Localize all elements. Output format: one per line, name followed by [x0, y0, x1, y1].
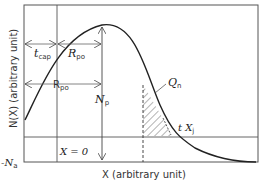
gaussian-profile-curve	[25, 25, 256, 162]
rpo-label-lower: Rpo	[53, 79, 69, 92]
rpo-label-top: Rpo	[67, 47, 85, 61]
tcap-label: tcap	[34, 47, 52, 61]
neg-na-label: -Na	[1, 157, 17, 170]
qn-hatched-region	[143, 85, 171, 136]
xj-label: t Xj	[178, 122, 194, 135]
y-axis-label: N(X) (arbitrary unit)	[8, 29, 19, 128]
qn-label: Qn	[168, 76, 181, 90]
doping-profile-diagram: tcap Rpo Rpo Np Qn t Xj X = 0 -Na X (arb…	[0, 0, 262, 188]
qn-leader-line	[155, 84, 166, 93]
x-zero-label: X = 0	[59, 146, 89, 157]
np-label: Np	[94, 93, 110, 107]
x-axis-label: X (arbitrary unit)	[102, 169, 186, 180]
